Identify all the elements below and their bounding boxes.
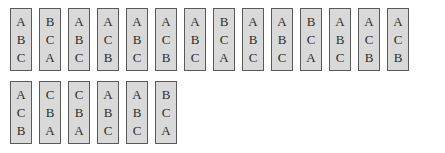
card-letter: C [133,51,142,64]
card-letter: C [46,88,55,101]
card-letter: B [220,15,229,28]
letter-card: BCA [300,8,322,71]
card-letter: A [16,88,25,101]
card-letter: B [75,33,84,46]
letter-card: BCA [39,8,61,71]
letter-card: ABC [97,81,119,144]
letter-card: ABC [126,8,148,71]
card-letter: B [104,106,113,119]
card-letter: C [220,33,229,46]
card-letter: A [248,15,257,28]
card-letter: B [336,33,345,46]
card-letter: A [393,15,402,28]
card-letter: C [365,33,374,46]
card-letter: A [45,124,54,137]
card-letter: B [17,33,26,46]
card-letter: A [219,51,228,64]
card-row-2: ACBCBACBAABCABCBCA [10,81,177,144]
card-letter: C [394,33,403,46]
card-letter: C [104,124,113,137]
letter-card: ACB [155,8,177,71]
letter-card: ABC [10,8,32,71]
card-letter: A [190,15,199,28]
card-letter: A [74,124,83,137]
letter-card: ACB [10,81,32,144]
card-letter: C [249,51,258,64]
card-letter: B [162,88,171,101]
card-letter: C [278,51,287,64]
card-letter: C [191,51,200,64]
card-letter: A [103,15,112,28]
card-letter: B [75,106,84,119]
card-letter: B [133,106,142,119]
card-letter: B [17,124,26,137]
card-letter: A [74,15,83,28]
letter-card: ABC [126,81,148,144]
card-letter: A [335,15,344,28]
card-letter: B [394,51,403,64]
card-letter: C [75,88,84,101]
card-row-1: ABCBCAABCACBABCACBABCBCAABCABCBCAABCACBA… [10,8,409,71]
card-letter: B [249,33,258,46]
letter-card: ABC [68,8,90,71]
card-letter: B [104,51,113,64]
letter-card: ABC [242,8,264,71]
card-letter: C [133,124,142,137]
letter-card: ACB [387,8,409,71]
card-letter: A [277,15,286,28]
card-letter: B [46,106,55,119]
card-letter: A [103,88,112,101]
letter-card: ABC [271,8,293,71]
card-letter: C [104,33,113,46]
card-letter: C [162,106,171,119]
letter-card: ABC [184,8,206,71]
card-letter: A [161,15,170,28]
card-letter: C [336,51,345,64]
card-letter: C [46,33,55,46]
letter-card: ACB [97,8,119,71]
card-letter: B [278,33,287,46]
card-letter: A [306,51,315,64]
letter-card: BCA [213,8,235,71]
letter-card: CBA [68,81,90,144]
card-letter: B [133,33,142,46]
card-letter: A [45,51,54,64]
card-letter: A [16,15,25,28]
card-letter: B [365,51,374,64]
letter-card: CBA [39,81,61,144]
card-letter: A [132,15,141,28]
card-letter: C [162,33,171,46]
card-letter: C [17,51,26,64]
letter-card: BCA [155,81,177,144]
card-letter: B [307,15,316,28]
card-letter: B [46,15,55,28]
card-letter: A [364,15,373,28]
card-letter: B [191,33,200,46]
card-letter: C [17,106,26,119]
card-letter: B [162,51,171,64]
letter-card: ABC [329,8,351,71]
letter-card: ACB [358,8,380,71]
card-letter: C [307,33,316,46]
card-letter: C [75,51,84,64]
card-letter: A [132,88,141,101]
card-letter: A [161,124,170,137]
